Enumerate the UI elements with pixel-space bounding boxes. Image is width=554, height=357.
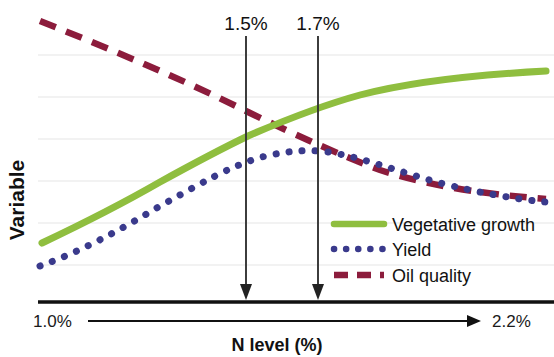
legend-label-yield: Yield (392, 240, 431, 260)
chart-svg: 1.5% 1.7% Vegetative growth Yield Oil qu… (0, 0, 554, 357)
chart-container: 1.5% 1.7% Vegetative growth Yield Oil qu… (0, 0, 554, 357)
x-axis-title: N level (%) (231, 335, 322, 355)
x-axis-end-label: 2.2% (492, 312, 531, 331)
legend-label-vegetative-growth: Vegetative growth (392, 215, 535, 235)
annotation-label-2: 1.7% (296, 13, 339, 34)
y-axis-label: Variable (5, 160, 28, 241)
legend-label-oil-quality: Oil quality (392, 266, 471, 286)
annotation-label-1: 1.5% (224, 13, 267, 34)
x-axis-start-label: 1.0% (33, 312, 72, 331)
